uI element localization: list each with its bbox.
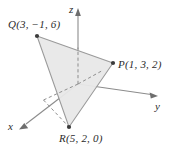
z-axis-label: z xyxy=(69,4,73,15)
point-label-r: R(5, 2, 0) xyxy=(59,133,103,144)
y-axis-label: y xyxy=(155,101,160,112)
y-axis-arrowhead xyxy=(150,93,158,99)
x-axis-label: x xyxy=(8,121,13,132)
point-label-p: P(1, 3, 2) xyxy=(118,59,162,70)
point-label-q: Q(3, −1, 6) xyxy=(8,19,60,30)
figure-canvas: Q(3, −1, 6) P(1, 3, 2) R(5, 2, 0) z y x xyxy=(0,0,171,157)
vertex-dot-q xyxy=(35,34,39,38)
vertex-dot-r xyxy=(67,125,71,129)
z-axis-arrowhead xyxy=(75,8,81,16)
vertex-dot-p xyxy=(111,61,115,65)
triangle-pqr xyxy=(37,36,113,127)
